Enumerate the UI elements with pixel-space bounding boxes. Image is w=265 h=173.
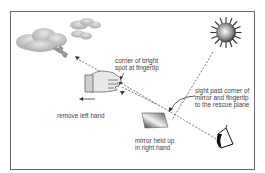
sun-icon <box>211 17 242 48</box>
fingertip-label-line-1: corner of bright <box>115 57 159 64</box>
clouds-icon <box>16 18 101 52</box>
mirror-label: mirror held up in right hand <box>135 137 174 151</box>
sight-label: sight past corner of mirror and fingerti… <box>195 87 249 109</box>
remove-hand-label: remove left hand <box>57 112 105 119</box>
sight-pointer-arrow <box>169 96 195 112</box>
sight-label-line-3: to the rescue plane <box>195 101 249 108</box>
sight-label-line-1: sight past corner of <box>195 87 249 94</box>
mirror-icon <box>142 113 168 128</box>
rescue-plane-icon <box>53 46 68 58</box>
remove-hand-arrow-icon <box>79 97 95 101</box>
fingertip-label-line-2: spot at fingertip <box>115 64 159 71</box>
sight-label-line-2: mirror and fingertip <box>195 94 249 101</box>
eye-icon <box>217 125 233 148</box>
fingertip-label: corner of bright spot at fingertip <box>115 57 159 71</box>
fingertip-pointer-arrow <box>120 73 124 80</box>
mirror-label-line-1: mirror held up <box>135 137 174 144</box>
left-hand-icon <box>85 71 121 92</box>
mirror-label-line-2: in right hand <box>135 144 174 151</box>
